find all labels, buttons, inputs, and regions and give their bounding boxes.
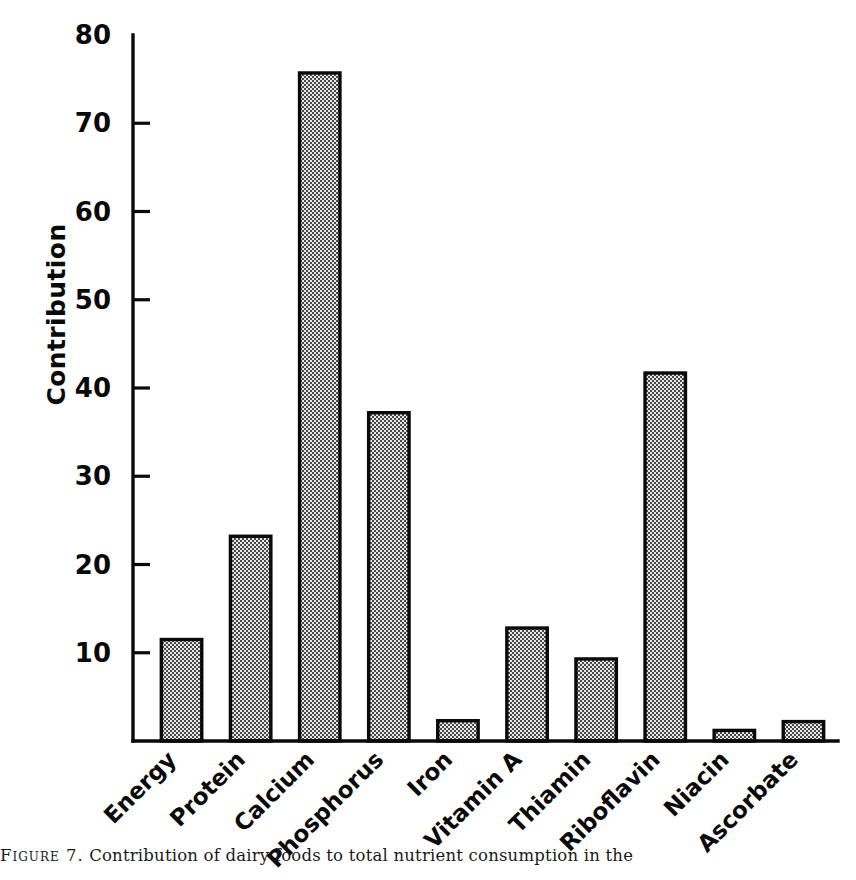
- bar: Riboflavin: 41.7: [645, 373, 685, 741]
- y-axis-tick-label: 10: [75, 638, 111, 668]
- bar: Calcium: 75.7: [300, 73, 340, 741]
- y-axis-tick-label: 50: [75, 285, 111, 315]
- figure-container: Contribution 1020304050607080 Energy: 11…: [0, 0, 856, 880]
- y-axis-tick-label: 40: [75, 373, 111, 403]
- x-axis-category-label: Iron: [402, 746, 457, 801]
- bar: Vitamin A: 12.8: [507, 628, 547, 741]
- bar: Phosphorus: 37.2: [369, 413, 409, 741]
- bar: Iron: 2.3: [438, 721, 478, 741]
- bar-series: Energy: 11.5Protein: 23.2Calcium: 75.7Ph…: [161, 73, 823, 741]
- caption-text: Contribution of dairy foods to total nut…: [89, 846, 633, 865]
- y-axis-tick-label: 20: [75, 550, 111, 580]
- y-axis-tick-label: 80: [75, 20, 111, 50]
- y-axis-tick-label: 60: [75, 197, 111, 227]
- figure-caption: Figure 7. Contribution of dairy foods to…: [0, 846, 856, 865]
- y-axis-tick-label: 70: [75, 108, 111, 138]
- y-axis-tick-label: 30: [75, 461, 111, 491]
- bar: Energy: 11.5: [161, 640, 201, 741]
- bar: Protein: 23.2: [230, 536, 270, 741]
- bar: Ascorbate: 2.2: [783, 722, 823, 741]
- bar: Thiamin: 9.3: [576, 659, 616, 741]
- caption-label: Figure 7.: [0, 846, 84, 865]
- y-axis-ticks: 1020304050607080: [75, 20, 150, 668]
- bar-chart-plot: 1020304050607080 Energy: 11.5Protein: 23…: [0, 0, 856, 880]
